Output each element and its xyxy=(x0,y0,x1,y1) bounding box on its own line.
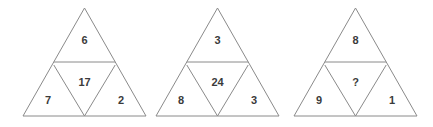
triangle-1-inner-vee xyxy=(54,65,115,116)
triangle-2-center-value: 24 xyxy=(211,76,224,88)
triangle-1-group: 6 17 7 2 xyxy=(23,8,146,116)
triangle-2-top-value: 3 xyxy=(214,34,220,46)
triangle-2-bottom-left-value: 8 xyxy=(178,94,184,106)
triangle-3-group: 8 ? 9 1 xyxy=(294,8,417,116)
triangle-3-inner-vee xyxy=(325,65,386,116)
triangle-2-group: 3 24 8 3 xyxy=(156,8,279,116)
triangle-puzzle-figure: 6 17 7 2 3 24 8 3 8 ? 9 1 xyxy=(0,0,433,127)
triangle-1-bottom-left-value: 7 xyxy=(45,94,51,106)
triangle-3-center-value: ? xyxy=(352,76,359,88)
triangle-2-bottom-right-value: 3 xyxy=(251,94,257,106)
triangle-3-bottom-left-value: 9 xyxy=(316,94,322,106)
triangle-1-top-value: 6 xyxy=(81,34,87,46)
triangle-1-center-value: 17 xyxy=(78,76,90,88)
puzzle-canvas: 6 17 7 2 3 24 8 3 8 ? 9 1 xyxy=(0,0,433,127)
triangle-3-bottom-right-value: 1 xyxy=(389,94,395,106)
triangle-3-top-value: 8 xyxy=(352,34,358,46)
triangle-2-inner-vee xyxy=(187,65,248,116)
triangle-1-bottom-right-value: 2 xyxy=(118,94,124,106)
